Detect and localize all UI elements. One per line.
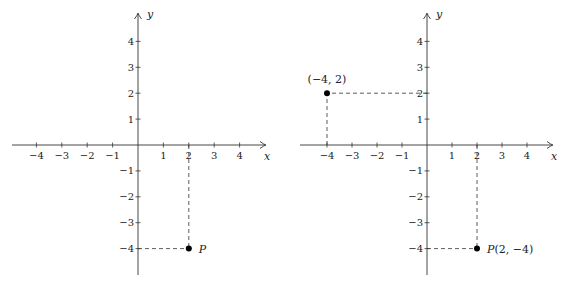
x-tick-label: −4 — [320, 150, 335, 161]
x-axis-label: x — [264, 150, 271, 163]
y-tick-label: −1 — [408, 165, 423, 176]
point-marker — [324, 90, 330, 96]
x-tick-label: 3 — [211, 150, 217, 161]
x-tick-label: 1 — [160, 150, 166, 161]
y-tick-label: −3 — [408, 217, 423, 228]
x-tick-label: −1 — [395, 150, 410, 161]
y-tick-label: −3 — [119, 217, 134, 228]
y-tick-label: 4 — [128, 36, 134, 47]
x-tick-label: −3 — [345, 150, 360, 161]
x-tick-label: −3 — [54, 150, 69, 161]
x-tick-label: 3 — [499, 150, 505, 161]
x-tick-label: −4 — [29, 150, 44, 161]
point-label: P(2, −4) — [486, 243, 533, 256]
x-tick-label: 2 — [186, 150, 192, 161]
y-tick-label: −2 — [119, 191, 134, 202]
point-label: P — [198, 243, 207, 256]
point-label: (−4, 2) — [308, 73, 347, 86]
x-tick-label: 2 — [474, 150, 480, 161]
point-marker — [186, 246, 192, 252]
y-tick-label: 3 — [128, 62, 134, 73]
x-tick-label: 1 — [449, 150, 455, 161]
y-tick-label: −1 — [119, 165, 134, 176]
x-tick-label: −1 — [105, 150, 120, 161]
x-tick-label: −2 — [80, 150, 95, 161]
y-tick-label: 2 — [128, 88, 134, 99]
coordinate-plane-left: xy−4−3−2−11234−4−3−2−11234P — [12, 8, 271, 275]
y-tick-label: −4 — [119, 243, 134, 254]
y-tick-label: 1 — [128, 114, 134, 125]
y-tick-label: −4 — [408, 243, 423, 254]
y-tick-label: 4 — [417, 36, 423, 47]
x-tick-label: −2 — [370, 150, 385, 161]
y-axis-label: y — [146, 8, 154, 21]
y-tick-label: 1 — [417, 114, 423, 125]
coordinate-plane-right: xy−4−3−2−11234−4−3−2−11234(−4, 2)P(2, −4… — [300, 8, 558, 275]
y-tick-label: 3 — [417, 62, 423, 73]
point-marker — [474, 246, 480, 252]
coordinate-plane-figure: xy−4−3−2−11234−4−3−2−11234Pxy−4−3−2−1123… — [0, 0, 567, 285]
y-axis-label: y — [435, 8, 443, 21]
y-tick-label: 2 — [417, 88, 423, 99]
x-axis-label: x — [551, 150, 558, 163]
x-tick-label: 4 — [524, 150, 530, 161]
x-tick-label: 4 — [236, 150, 242, 161]
y-tick-label: −2 — [408, 191, 423, 202]
